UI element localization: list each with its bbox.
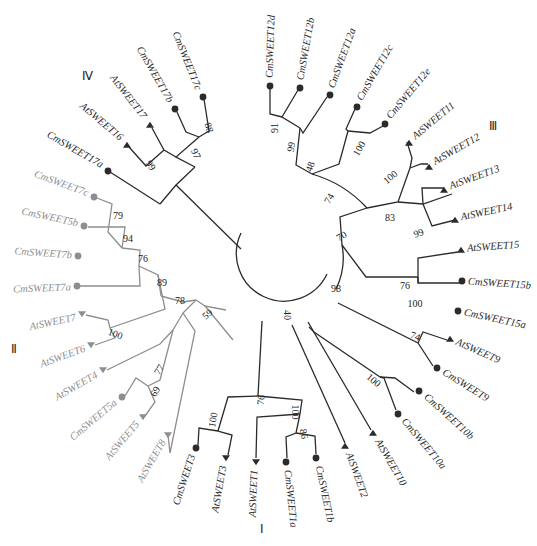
leaf-cmsweet17a: CmSWEET17a [45, 129, 111, 175]
circle-marker-icon [395, 411, 402, 418]
leaf-atsweet3: AtSWEET3 [209, 455, 230, 514]
leaf-label: CmSWEET10a [400, 416, 449, 471]
leaf-cmsweet7b: CmSWEET7b [14, 245, 81, 260]
circle-marker-icon [267, 83, 274, 90]
bootstrap-value: 78 [175, 295, 185, 306]
bootstrap-value: 86 [298, 428, 311, 440]
clade-label-iv: Ⅳ [82, 69, 93, 83]
leaf-label: CmSWEET12d [263, 14, 276, 78]
circle-marker-icon [81, 223, 88, 230]
clade-i-branches [198, 321, 316, 458]
circle-marker-icon [434, 365, 441, 372]
branches [80, 88, 462, 458]
triangle-marker-icon [425, 164, 433, 170]
leaf-label: AtSWEET2 [344, 450, 371, 500]
tree-canvas: CmSWEET17cCmSWEET17bAtSWEET17AtSWEET16Cm… [0, 0, 537, 546]
leaf-cmsweet1b: CmSWEET1b [313, 455, 337, 524]
circle-marker-icon [455, 308, 462, 315]
leaf-atsweet12: AtSWEET12 [425, 131, 482, 170]
leaf-label: AtSWEET8 [134, 437, 168, 485]
clade-label-iii: Ⅲ [489, 119, 497, 133]
bootstrap-value: 100 [206, 411, 219, 428]
bootstrap-value: 83 [385, 212, 395, 223]
leaf-label: CmSWEET7a [13, 281, 71, 294]
leaf-label: AtSWEET11 [409, 100, 456, 142]
leaf-label: CmSWEET12a [326, 27, 358, 90]
leaf-label: AtSWEET10 [373, 436, 410, 488]
bootstrap-value: 100 [381, 168, 400, 186]
leaf-label: CmSWEET17c [171, 30, 205, 92]
leaf-atsweet8: AtSWEET8 [134, 432, 172, 485]
clade-label-ii: Ⅱ [11, 342, 17, 356]
leaf-label: CmSWEET5a [68, 397, 119, 443]
leaf-label: CmSWEET12b [295, 17, 317, 81]
triangle-marker-icon [405, 140, 413, 146]
bootstrap-value: 40 [282, 310, 293, 320]
leaf-cmsweet5a: CmSWEET5a [68, 394, 126, 443]
circle-marker-icon [193, 445, 200, 452]
circle-marker-icon [105, 168, 112, 175]
circle-marker-icon [354, 104, 361, 111]
circle-marker-icon [327, 92, 334, 99]
leaf-label: CmSWEET15a [463, 307, 527, 331]
leaf-cmsweet17c: CmSWEET17c [171, 30, 207, 101]
bootstrap-value: 76 [138, 253, 148, 264]
bootstrap-value: 69 [148, 384, 163, 398]
leaf-labels: CmSWEET17cCmSWEET17bAtSWEET17AtSWEET16Cm… [13, 14, 531, 528]
leaf-cmsweet3: CmSWEET3 [171, 445, 200, 507]
circle-marker-icon [297, 85, 304, 92]
bootstrap-value: 99 [412, 226, 425, 240]
leaf-label: CmSWEET17b [135, 44, 176, 104]
bootstrap-value: 99 [285, 141, 298, 153]
leaf-label: AtSWEET4 [52, 369, 100, 403]
leaf-atsweet1: AtSWEET1 [247, 459, 260, 518]
triangle-marker-icon [457, 247, 465, 253]
leaf-label: AtSWEET14 [459, 200, 514, 222]
leaf-label: CmSWEET12c [354, 42, 395, 102]
leaf-label: CmSWEET1a [283, 469, 300, 528]
circle-marker-icon [119, 394, 126, 401]
leaf-label: AtSWEET5 [102, 419, 141, 463]
leaf-cmsweet12a: CmSWEET12a [326, 27, 358, 99]
triangle-marker-icon [78, 311, 86, 317]
leaf-cmsweet12d: CmSWEET12d [263, 14, 276, 89]
triangle-marker-icon [252, 459, 260, 465]
triangle-marker-icon [446, 336, 454, 342]
root-ring [236, 233, 327, 301]
leaf-label: CmSWEET9 [441, 366, 492, 404]
leaf-label: AtSWEET9 [453, 336, 502, 366]
leaf-cmsweet15a: CmSWEET15a [455, 307, 527, 331]
leaf-atsweet14: AtSWEET14 [451, 200, 514, 222]
leaf-cmsweet9: CmSWEET9 [434, 365, 492, 404]
bootstrap-value: 76 [400, 280, 410, 291]
leaf-cmsweet12e: CmSWEET12e [382, 66, 433, 128]
leaf-label: CmSWEET15b [468, 275, 532, 290]
leaf-label: CmSWEET10b [422, 391, 476, 441]
circle-marker-icon [75, 253, 82, 260]
leaf-label: AtSWEET15 [466, 239, 520, 254]
leaf-label: AtSWEET12 [430, 131, 482, 168]
bootstrap-value: 100 [408, 298, 423, 309]
triangle-marker-icon [451, 217, 459, 223]
bootstrap-values: 8897997994768978591007769100761008640987… [106, 121, 425, 440]
clade-labels: ⅠⅡⅢⅣ [11, 69, 497, 536]
triangle-marker-icon [146, 122, 154, 128]
circle-marker-icon [172, 106, 179, 113]
circle-marker-icon [283, 459, 290, 466]
triangle-marker-icon [222, 455, 230, 461]
leaf-atsweet6: AtSWEET6 [37, 342, 95, 369]
leaf-atsweet13: AtSWEET13 [440, 163, 501, 193]
triangle-marker-icon [87, 342, 95, 348]
leaf-label: AtSWEET7 [27, 311, 77, 332]
circle-marker-icon [459, 278, 466, 285]
bootstrap-value: 100 [106, 326, 124, 341]
leaf-cmsweet15b: CmSWEET15b [459, 275, 532, 290]
leaf-label: CmSWEET5b [21, 206, 80, 229]
leaf-label: CmSWEET3 [171, 453, 198, 506]
leaf-atsweet4: AtSWEET4 [52, 367, 107, 403]
leaf-atsweet10: AtSWEET10 [369, 430, 409, 489]
bootstrap-value: 100 [290, 405, 301, 420]
bootstrap-value: 59 [200, 307, 215, 322]
leaf-cmsweet10a: CmSWEET10a [395, 411, 449, 471]
circle-marker-icon [382, 121, 389, 128]
